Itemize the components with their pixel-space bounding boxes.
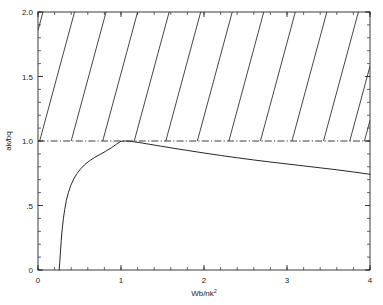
hatch-line — [197, 12, 232, 141]
y-tick-label: 1.0 — [22, 137, 34, 146]
hatch-line — [324, 12, 359, 141]
x-tick-label: 0 — [36, 276, 41, 285]
hatch-line — [71, 12, 106, 141]
hatch-line — [40, 12, 75, 141]
x-tick-label: 3 — [285, 276, 290, 285]
y-tick-label: 0 — [29, 266, 34, 275]
x-tick-label: 1 — [119, 276, 124, 285]
hatch-line — [103, 12, 138, 141]
hatch-line — [364, 120, 370, 141]
hatch-line — [292, 12, 327, 141]
y-axis-title: ak/bq — [4, 131, 13, 151]
chart-canvas: 01234 0.51.01.52.0 Wb/nk2 ak/bq — [0, 0, 383, 305]
hatch-line — [260, 12, 295, 141]
y-tick-label: 1.5 — [22, 73, 34, 82]
hatch-line — [134, 12, 169, 141]
x-tick-label: 4 — [368, 276, 373, 285]
hatching-region — [38, 12, 370, 175]
y-tick-label: .5 — [26, 202, 33, 211]
stability-boundary-curve — [59, 141, 370, 270]
chart-figure: 01234 0.51.01.52.0 Wb/nk2 ak/bq — [0, 0, 383, 305]
hatch-line — [229, 12, 264, 141]
x-axis-tick-labels: 01234 — [36, 276, 373, 285]
y-axis-tick-labels: 0.51.01.52.0 — [22, 8, 34, 275]
x-axis-title: Wb/nk2 — [191, 288, 217, 299]
x-axis-title-main: Wb/nk — [191, 289, 215, 298]
x-tick-label: 2 — [202, 276, 207, 285]
y-tick-label: 2.0 — [22, 8, 34, 17]
hatch-line — [38, 12, 43, 30]
x-axis-title-superscript: 2 — [214, 288, 217, 294]
hatch-line — [166, 12, 201, 141]
hatch-line — [350, 66, 370, 141]
